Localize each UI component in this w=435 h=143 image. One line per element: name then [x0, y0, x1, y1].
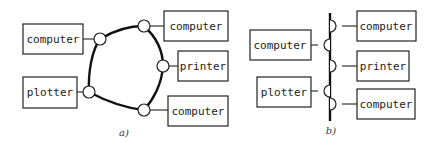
node-plotter-left: plotter — [23, 77, 95, 108]
node-printer-right: printer — [157, 51, 228, 81]
tap-connector-icon — [330, 20, 336, 32]
node-label: printer — [180, 60, 227, 73]
node-computer-bottom-right: computer — [330, 89, 415, 119]
tap-connector-icon — [94, 33, 106, 45]
node-computer-top-right: computer — [138, 11, 228, 41]
node-printer-right: printer — [330, 51, 409, 81]
tap-connector-icon — [330, 60, 336, 72]
node-computer-left: computer — [250, 30, 330, 60]
network-topology-diagram: computer plotter computer printer — [0, 0, 435, 143]
tap-connector-icon — [157, 60, 169, 72]
tap-connector-icon — [330, 98, 336, 110]
figure-caption-a: a) — [119, 127, 129, 138]
node-label: computer — [27, 33, 80, 46]
figure-b-bus-network: computer plotter computer printer — [250, 11, 416, 136]
node-label: plotter — [261, 86, 308, 99]
node-plotter-left: plotter — [257, 77, 330, 107]
figure-a-ring-network: computer plotter computer printer — [23, 11, 228, 138]
node-label: computer — [254, 39, 307, 52]
node-computer-top-right: computer — [330, 11, 416, 41]
figure-caption-b: b) — [326, 125, 336, 136]
node-label: computer — [360, 98, 413, 111]
node-label: plotter — [27, 86, 74, 99]
tap-connector-icon — [138, 20, 150, 32]
tap-connector-icon — [138, 104, 150, 116]
node-label: computer — [170, 20, 223, 33]
tap-connector-icon — [83, 86, 95, 98]
node-label: printer — [360, 60, 407, 73]
tap-connector-icon — [324, 85, 330, 97]
tap-connector-icon — [324, 39, 330, 51]
node-label: computer — [360, 20, 413, 33]
node-label: computer — [172, 105, 225, 118]
